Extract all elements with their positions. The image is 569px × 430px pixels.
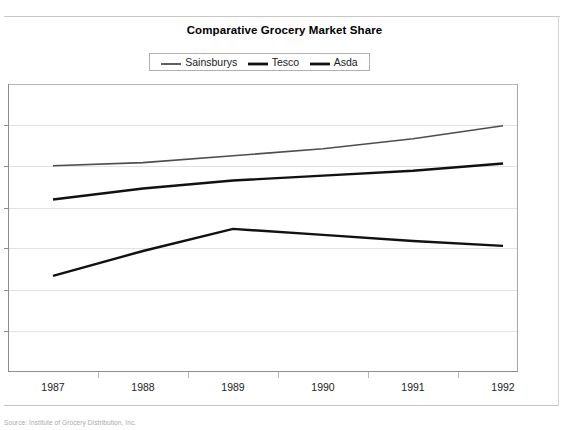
series-layer (8, 84, 518, 372)
series-line-asda (53, 229, 503, 276)
series-line-tesco (53, 164, 503, 200)
footer-caption: Source: Institute of Grocery Distributio… (4, 419, 136, 426)
x-axis-label: 1987 (23, 381, 83, 393)
x-axis-label: 1992 (473, 381, 533, 393)
plot-area (8, 84, 518, 372)
legend-item-sainsburys: Sainsburys (161, 53, 237, 71)
x-axis-tick (368, 372, 369, 378)
legend-item-tesco: Tesco (248, 53, 299, 71)
chart-legend: Sainsburys Tesco Asda (149, 53, 370, 71)
x-axis-label: 1988 (113, 381, 173, 393)
x-axis-labels: 198719881989199019911992 (8, 381, 518, 395)
legend-label: Asda (334, 56, 358, 68)
series-line-sainsburys (53, 126, 503, 166)
chart-title: Comparative Grocery Market Share (0, 24, 569, 36)
legend-line-swatch-icon (161, 53, 181, 71)
x-axis-tick (278, 372, 279, 378)
x-axis-label: 1991 (383, 381, 443, 393)
x-axis-label: 1990 (293, 381, 353, 393)
figure-bottom-rule (4, 405, 558, 406)
legend-label: Sainsburys (185, 56, 237, 68)
x-axis-tick (98, 372, 99, 378)
figure-top-rule (4, 16, 560, 17)
x-axis-label: 1989 (203, 381, 263, 393)
legend-label: Tesco (272, 56, 299, 68)
chart-figure: Comparative Grocery Market Share Sainsbu… (0, 0, 569, 430)
x-axis-tick (458, 372, 459, 378)
figure-right-rule (558, 16, 559, 406)
legend-line-swatch-icon (310, 53, 330, 71)
legend-item-asda: Asda (310, 53, 358, 71)
x-axis-tick (188, 372, 189, 378)
legend-line-swatch-icon (248, 53, 268, 71)
